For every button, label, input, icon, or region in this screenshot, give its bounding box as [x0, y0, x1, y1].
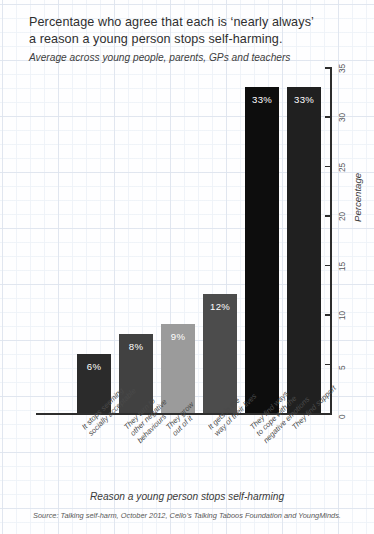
y-tick-20 — [325, 215, 332, 217]
y-tick-label-30: 30 — [337, 113, 347, 122]
x-axis-title: Reason a young person stops self-harming — [0, 491, 374, 502]
y-tick-label-15: 15 — [337, 261, 347, 270]
page-title-line-2: a reason a young person stops self-harmi… — [29, 31, 359, 48]
source-note: Source: Talking self-harm, October 2012,… — [0, 511, 374, 520]
y-tick-15 — [325, 265, 332, 267]
y-tick-5 — [325, 364, 332, 366]
y-tick-label-5: 5 — [337, 365, 347, 370]
page-title-line-1: Percentage who agree that each is ‘nearl… — [29, 14, 359, 31]
bar-value-label-5: 33% — [245, 94, 279, 105]
y-tick-10 — [325, 314, 332, 316]
plot-area: 05101520253035 6%8%9%12%33%33% — [36, 64, 332, 416]
y-tick-30 — [325, 116, 332, 118]
y-tick-label-20: 20 — [337, 212, 347, 221]
bar-4[interactable]: 12% — [203, 294, 237, 413]
chart-page: Percentage who agree that each is ‘nearl… — [0, 0, 374, 534]
bar-6[interactable]: 33% — [287, 87, 321, 413]
bar-value-label-3: 9% — [161, 331, 195, 342]
bar-3[interactable]: 9% — [161, 324, 195, 413]
y-tick-0 — [325, 413, 332, 415]
y-tick-25 — [325, 166, 332, 168]
bar-5[interactable]: 33% — [245, 87, 279, 413]
bar-value-label-6: 33% — [287, 94, 321, 105]
x-axis-category-labels: It stops seemingsocially acceptableThey … — [36, 417, 356, 497]
y-axis-title: Percentage — [352, 173, 363, 222]
bar-value-label-1: 6% — [77, 361, 111, 372]
chart-subtitle: Average across young people, parents, GP… — [29, 50, 359, 65]
bar-value-label-4: 12% — [203, 301, 237, 312]
y-tick-35 — [325, 67, 332, 69]
y-tick-label-10: 10 — [337, 311, 347, 320]
bar-value-label-2: 8% — [119, 341, 153, 352]
y-tick-label-35: 35 — [337, 64, 347, 73]
y-tick-label-25: 25 — [337, 163, 347, 172]
chart-title-block: Percentage who agree that each is ‘nearl… — [29, 14, 359, 65]
